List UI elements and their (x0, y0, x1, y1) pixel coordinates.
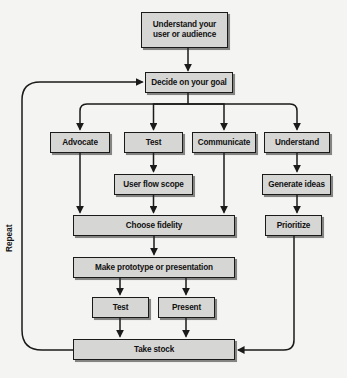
node-take-stock[interactable]: Take stock (73, 339, 235, 360)
node-prioritize[interactable]: Prioritize (265, 215, 322, 236)
node-understand-user[interactable]: Understand your user or audience (141, 12, 228, 48)
edge-prioritize-to-take-stock (238, 236, 294, 350)
node-decide-goal-label: Decide on your goal (148, 78, 230, 88)
edge-fan-bar-left (80, 104, 188, 130)
node-test-branch-label: Test (127, 138, 180, 148)
node-understand-label: Understand (267, 138, 327, 148)
node-present[interactable]: Present (158, 297, 215, 318)
node-user-flow-scope[interactable]: User flow scope (114, 174, 193, 195)
node-prioritize-label: Prioritize (268, 221, 319, 231)
edge-fan-bar-right (188, 104, 297, 130)
node-take-stock-label: Take stock (76, 345, 232, 355)
node-understand-user-line2: user or audience (153, 30, 216, 39)
node-advocate[interactable]: Advocate (50, 132, 110, 153)
edge-fan-to-test (154, 104, 189, 130)
node-understand[interactable]: Understand (264, 132, 330, 153)
repeat-loop-label: Repeat (4, 225, 14, 252)
node-present-label: Present (161, 303, 212, 313)
node-test-final[interactable]: Test (92, 297, 149, 318)
node-decide-goal[interactable]: Decide on your goal (145, 72, 233, 93)
node-choose-fidelity-label: Choose fidelity (76, 221, 232, 231)
node-generate-ideas-label: Generate ideas (265, 180, 328, 190)
node-communicate-label: Communicate (195, 138, 253, 148)
node-advocate-label: Advocate (53, 138, 107, 148)
node-user-flow-scope-label: User flow scope (117, 180, 190, 190)
node-test-branch[interactable]: Test (124, 132, 183, 153)
edge-fan-to-communicate (188, 104, 224, 130)
node-choose-fidelity[interactable]: Choose fidelity (73, 215, 235, 236)
node-communicate[interactable]: Communicate (192, 132, 256, 153)
node-understand-user-line1: Understand your (153, 20, 216, 29)
node-make-prototype-label: Make prototype or presentation (76, 263, 232, 273)
node-generate-ideas[interactable]: Generate ideas (262, 174, 331, 195)
node-make-prototype[interactable]: Make prototype or presentation (73, 257, 235, 278)
flowchart-canvas: Understand your user or audience Decide … (0, 0, 347, 378)
node-test-final-label: Test (95, 303, 146, 313)
